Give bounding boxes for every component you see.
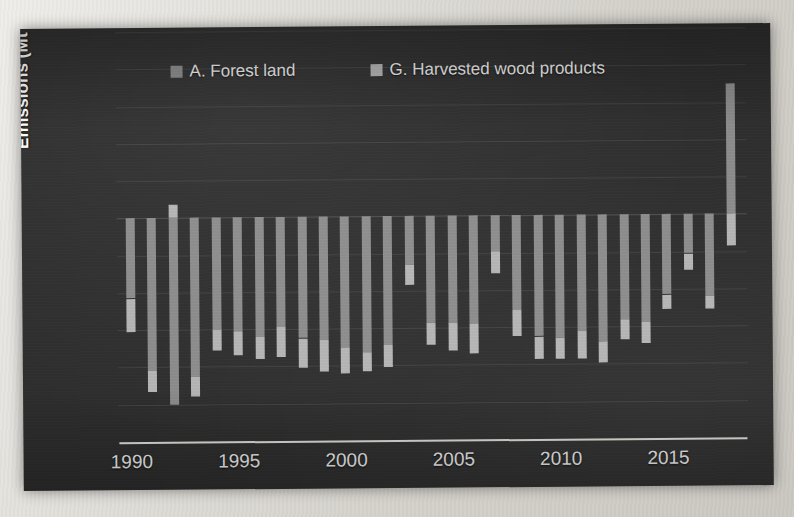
bar-segment-2001-forest-land [362, 217, 372, 353]
bar-2006 [467, 29, 479, 439]
bar-segment-2000-harvested-wood-products [341, 347, 350, 373]
legend-label: G. Harvested wood products [389, 58, 605, 80]
bar-1993 [188, 32, 200, 442]
bar-segment-2013-forest-land [619, 215, 629, 319]
bar-segment-2000-forest-land [340, 217, 350, 348]
bar-segment-1998-forest-land [297, 217, 307, 338]
bar-segment-2014-forest-land [641, 214, 651, 322]
bar-segment-2018-harvested-wood-products [726, 214, 735, 246]
bar-segment-2005-harvested-wood-products [448, 322, 457, 350]
bar-2017 [704, 28, 716, 438]
bar-segment-2016-harvested-wood-products [684, 253, 693, 270]
bar-segment-2002-forest-land [383, 216, 393, 345]
bar-2001 [360, 30, 372, 440]
legend-forest-land[interactable]: A. Forest land [170, 61, 295, 82]
bar-segment-1992-harvested-wood-products [168, 205, 177, 218]
bar-segment-2017-harvested-wood-products [706, 296, 715, 309]
x-tick-label-2010: 2010 [540, 449, 582, 468]
bar-2004 [425, 30, 437, 440]
bar-segment-2007-harvested-wood-products [491, 251, 500, 273]
bar-segment-1991-forest-land [147, 218, 157, 371]
bar-segment-2005-forest-land [447, 216, 457, 322]
bar-segment-2004-harvested-wood-products [427, 322, 436, 344]
bar-segment-2013-harvested-wood-products [620, 319, 629, 340]
bar-2018 [725, 27, 737, 437]
x-tick-label-2005: 2005 [433, 449, 475, 468]
legend-swatch-icon [370, 64, 382, 76]
x-tick-label-2000: 2000 [325, 450, 367, 469]
bar-segment-1997-forest-land [276, 217, 286, 327]
bar-segment-2014-harvested-wood-products [641, 322, 650, 343]
bar-segment-2009-forest-land [533, 215, 543, 336]
bar-segment-2002-harvested-wood-products [384, 345, 393, 367]
bar-segment-2018-forest-land [725, 83, 735, 214]
bar-segment-2010-forest-land [555, 215, 565, 338]
bar-segment-2006-forest-land [469, 216, 479, 324]
bar-1996 [253, 31, 265, 441]
bar-segment-2010-harvested-wood-products [556, 338, 565, 359]
bar-segment-2015-forest-land [662, 214, 672, 294]
bar-segment-2011-forest-land [576, 215, 586, 331]
x-tick-label-1995: 1995 [218, 451, 260, 470]
bar-segment-1997-harvested-wood-products [277, 327, 286, 357]
bar-segment-2003-harvested-wood-products [405, 265, 414, 286]
bar-segment-1994-forest-land [211, 218, 221, 330]
bar-2008 [510, 29, 522, 439]
bar-segment-1994-harvested-wood-products [212, 330, 221, 351]
bar-segment-1990-harvested-wood-products [126, 299, 135, 333]
bar-segment-1991-harvested-wood-products [148, 371, 157, 392]
bar-segment-2004-forest-land [426, 216, 436, 322]
bar-1994 [210, 31, 222, 441]
bar-segment-1993-forest-land [190, 218, 200, 376]
bar-segment-1999-harvested-wood-products [320, 340, 329, 372]
x-tick-label-1990: 1990 [111, 452, 153, 471]
bar-2000 [339, 30, 351, 440]
bar-1998 [296, 31, 308, 441]
y-axis-label: Emissions (Mt CO2 eq.) [20, 23, 35, 149]
bar-segment-2009-harvested-wood-products [534, 336, 543, 358]
bar-segment-2015-harvested-wood-products [663, 294, 672, 309]
bar-segment-1999-forest-land [319, 217, 329, 340]
bar-2015 [661, 28, 673, 438]
bar-2009 [532, 29, 544, 439]
bar-segment-1990-forest-land [125, 218, 135, 298]
legend-harvested-wood[interactable]: G. Harvested wood products [370, 58, 605, 80]
bar-2012 [596, 28, 608, 438]
bar-2007 [489, 29, 501, 439]
bar-segment-2016-forest-land [684, 214, 693, 253]
bar-2016 [682, 28, 694, 438]
y-axis-label-prefix: Emissions (Mt CO [20, 23, 32, 149]
bar-segment-2012-harvested-wood-products [599, 341, 608, 362]
bar-segment-2012-forest-land [598, 215, 608, 342]
bar-segment-1995-harvested-wood-products [234, 331, 243, 355]
bar-segment-2007-forest-land [490, 216, 499, 251]
bar-1991 [145, 32, 157, 442]
legend-label: A. Forest land [189, 61, 295, 82]
bar-1997 [274, 31, 286, 441]
legend-swatch-icon [170, 66, 182, 78]
bar-segment-1995-forest-land [233, 218, 243, 332]
bar-2011 [575, 29, 587, 439]
bar-segment-2017-forest-land [705, 214, 715, 296]
bar-segment-2006-harvested-wood-products [470, 324, 479, 354]
bar-segment-2011-harvested-wood-products [577, 330, 586, 358]
bar-segment-2008-harvested-wood-products [513, 310, 522, 336]
bar-1990 [124, 32, 136, 442]
bar-segment-1996-forest-land [254, 217, 264, 336]
bar-1999 [317, 31, 329, 441]
bar-segment-1993-harvested-wood-products [191, 376, 200, 397]
bar-segment-2008-forest-land [512, 215, 522, 310]
bar-2010 [553, 29, 565, 439]
bar-segment-1998-harvested-wood-products [298, 338, 307, 368]
bar-2005 [446, 30, 458, 440]
bar-segment-1992-forest-land [168, 218, 178, 404]
bar-2002 [382, 30, 394, 440]
bar-2013 [618, 28, 630, 438]
bar-2003 [403, 30, 415, 440]
x-tick-label-2015: 2015 [647, 448, 689, 467]
plot-area: 1086420-2-4-6-8-10-12 A. Forest landG. H… [115, 27, 748, 442]
bar-2014 [639, 28, 651, 438]
bar-segment-2003-forest-land [405, 216, 414, 265]
bar-1992 [167, 32, 179, 442]
bar-segment-1996-harvested-wood-products [255, 337, 264, 359]
